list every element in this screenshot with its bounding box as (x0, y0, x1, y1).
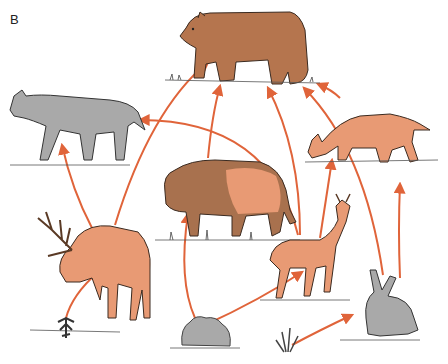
food-web-diagram: B (0, 0, 448, 364)
elk-illustration (30, 212, 150, 332)
grass-illustration (276, 328, 298, 352)
arrow-grass-to-rabbit (292, 315, 352, 345)
shrub-illustration (58, 318, 74, 338)
wolf-illustration (10, 90, 145, 165)
arrow-bush-to-deer (205, 272, 302, 325)
bush-illustration (170, 317, 240, 348)
rabbit-illustration (340, 270, 420, 340)
arrow-rabbit-to-coyote (399, 184, 400, 278)
arrow-deer-to-coyote (320, 160, 332, 238)
arrow-coyote-to-bear (318, 84, 340, 98)
bison-illustration (155, 160, 300, 240)
food-web-canvas (0, 0, 448, 364)
arrow-bison-to-bear (208, 86, 220, 158)
coyote-illustration (305, 114, 438, 162)
bear-illustration (165, 12, 320, 84)
